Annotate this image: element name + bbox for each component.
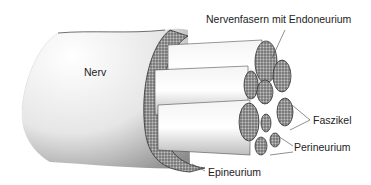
nerve-diagram	[0, 0, 371, 185]
label-fascicle: Faszikel	[313, 115, 352, 126]
label-epineurium: Epineurium	[208, 167, 261, 178]
label-nerve: Nerv	[84, 67, 106, 78]
label-perineurium: Perineurium	[294, 142, 351, 153]
label-nerve-fibers: Nervenfasern mit Endoneurium	[206, 14, 351, 25]
